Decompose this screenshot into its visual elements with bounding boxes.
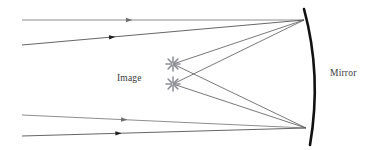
optics-ray-diagram: Image Mirror (0, 0, 373, 150)
image-label: Image (117, 73, 142, 83)
reflected-ray-bottom-to-upper-image (173, 64, 306, 128)
mirror-label: Mirror (330, 68, 357, 78)
reflected-ray-top-to-upper-image (173, 20, 304, 64)
reflected-ray-bottom-to-lower-image (173, 84, 306, 128)
starburst-spoke (168, 85, 172, 89)
reflected-rays-group (173, 20, 306, 128)
incoming-ray-4 (22, 128, 306, 136)
starburst-spoke (168, 65, 172, 69)
incoming-rays-group (22, 20, 306, 136)
starburst-spoke (168, 59, 172, 63)
incoming-ray-3 (22, 115, 306, 128)
concave-mirror-arc (304, 9, 315, 145)
incoming-ray-2 (22, 20, 304, 45)
diagram-canvas: Image Mirror (0, 0, 373, 150)
starburst-spoke (168, 79, 172, 83)
